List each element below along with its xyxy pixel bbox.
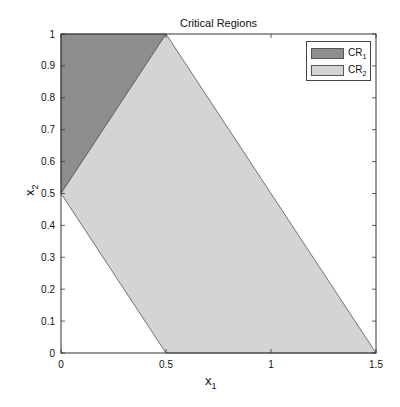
- x-tick-label: 1.5: [369, 359, 383, 370]
- y-tick-label: 0: [49, 348, 55, 359]
- legend-item-cr2: CR2: [311, 64, 366, 77]
- y-tick-label: 0.3: [41, 252, 55, 263]
- legend-swatch-cr2: [311, 65, 344, 76]
- y-tick-label: 0.2: [41, 284, 55, 295]
- x-tick-label: 0.5: [159, 359, 173, 370]
- y-tick-label: 0.4: [41, 220, 55, 231]
- y-tick-label: 0.6: [41, 156, 55, 167]
- y-tick-label: 0.8: [41, 92, 55, 103]
- y-tick-label: 0.1: [41, 316, 55, 327]
- legend-label-cr2: CR2: [348, 64, 366, 77]
- y-tick-label: 0.9: [41, 60, 55, 71]
- legend-item-cr1: CR1: [311, 47, 366, 60]
- y-tick-label: 0.5: [41, 188, 55, 199]
- y-tick-label: 0.7: [41, 124, 55, 135]
- y-axis-label: x2: [22, 184, 40, 196]
- legend-swatch-cr1: [311, 48, 344, 59]
- y-tick-label: 1: [49, 29, 55, 40]
- legend-label-cr1: CR1: [348, 47, 366, 60]
- x-axis-label: x1: [205, 373, 217, 391]
- x-tick-label: 1: [268, 359, 274, 370]
- x-tick-label: 0: [58, 359, 64, 370]
- legend: CR1 CR2: [306, 41, 371, 81]
